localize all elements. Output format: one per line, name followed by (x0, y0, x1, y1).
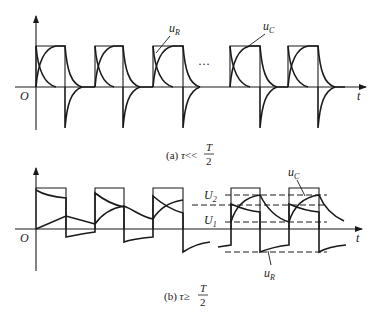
panel-a: O t ··· uR uC (a) τ<< T 2 (15, 16, 366, 167)
svg-text:2: 2 (200, 296, 206, 308)
b-U1-label: U1 (204, 213, 217, 229)
a-origin-label: O (20, 89, 29, 103)
a-caption: (a) τ<< T 2 (166, 141, 214, 167)
a-ellipsis: ··· (198, 57, 210, 71)
svg-text:T: T (206, 141, 213, 153)
b-U2-label: U2 (204, 188, 217, 204)
b-uC-label: uC (288, 165, 300, 181)
b-uR-label: uR (264, 266, 275, 282)
rc-circuit-waveform-figure: O t ··· uR uC (a) τ<< T 2 (0, 0, 380, 323)
svg-text:2: 2 (206, 155, 212, 167)
a-uR-label: uR (169, 21, 180, 37)
b-caption: (b) τ≥ T 2 (164, 282, 208, 308)
b-uC-curve (36, 195, 344, 229)
a-uR-leader-line (156, 36, 170, 53)
a-uC-curve (36, 46, 335, 87)
a-time-label: t (357, 89, 361, 103)
a-square-wave (36, 46, 318, 87)
b-origin-label: O (20, 231, 29, 245)
svg-text:T: T (200, 282, 207, 294)
b-square-wave (36, 188, 319, 229)
b-uR-leader-line (268, 251, 271, 265)
svg-text:(a) τ<<: (a) τ<< (166, 149, 197, 162)
panel-b: O t U2 U1 uC uR (b) τ≥ T 2 (15, 165, 362, 308)
svg-text:(b) τ≥: (b) τ≥ (164, 290, 190, 303)
b-time-label: t (356, 231, 360, 245)
a-uC-label: uC (263, 19, 275, 35)
